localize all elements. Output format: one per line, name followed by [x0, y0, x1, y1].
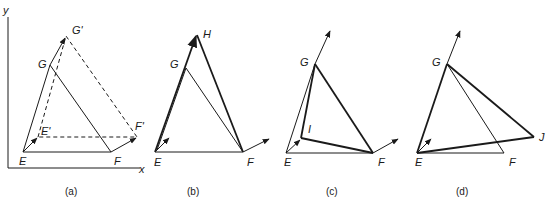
y-axis-label: y [2, 4, 10, 16]
edge-gj [447, 64, 534, 137]
caption-c: (c) [326, 186, 338, 197]
label-e: E [415, 156, 423, 168]
arrow-f [243, 139, 269, 152]
label-f-prime: F' [135, 120, 145, 132]
label-e-prime: E' [41, 125, 51, 137]
arrow-g [447, 31, 460, 64]
caption-a: (a) [65, 186, 77, 197]
panel-b: E F G H (b) [154, 28, 269, 197]
edge-gf [315, 64, 373, 153]
caption-d: (d) [456, 186, 468, 197]
label-f: F [247, 156, 255, 168]
edge-eg [157, 68, 186, 150]
caption-b: (b) [187, 186, 199, 197]
label-h: H [203, 28, 211, 40]
edge-gf [447, 64, 504, 153]
panel-a: y x E F G E' F' G' (a) [2, 4, 145, 197]
panel-c: E F G I (c) [284, 31, 398, 197]
label-e: E [154, 156, 162, 168]
label-f: F [378, 156, 386, 168]
diagram-canvas: y x E F G E' F' G' (a) E F G H (b) [0, 0, 549, 201]
arrow-f-to-fprime [111, 138, 136, 152]
arrow-f [373, 139, 398, 153]
arrow-g-to-gprime [50, 38, 65, 65]
label-g: G [300, 56, 309, 68]
label-g: G [170, 58, 179, 70]
edge-eg [417, 64, 447, 153]
edge-eh [155, 36, 196, 152]
label-g-prime: G' [72, 24, 84, 36]
triangle-translated [38, 36, 137, 137]
label-j: J [538, 131, 545, 143]
panel-d: E F G J (d) [415, 31, 545, 197]
label-e: E [284, 156, 292, 168]
label-g: G [38, 58, 47, 70]
label-g: G [432, 56, 441, 68]
x-axis-label: x [138, 163, 145, 175]
label-e: E [19, 155, 27, 167]
edge-if [301, 138, 373, 153]
arrow-g [315, 31, 330, 64]
label-i: I [308, 123, 311, 135]
edge-ej [417, 137, 534, 153]
label-f: F [114, 155, 122, 167]
label-f: F [509, 156, 517, 168]
